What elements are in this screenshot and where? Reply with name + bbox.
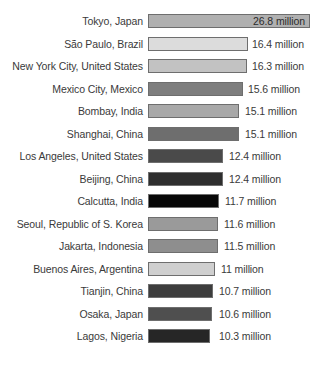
bar [148,82,243,96]
chart-row: Tokyo, Japan26.8 million [0,13,316,29]
category-label: Tianjin, China [0,283,143,299]
value-label: 15.1 million [245,126,297,142]
chart-row: Seoul, Republic of S. Korea11.6 million [0,216,316,232]
bar [148,307,212,321]
bar [148,262,215,276]
bar [148,172,223,186]
value-label: 10.3 million [219,328,271,344]
chart-row: Buenos Aires, Argentina11 million [0,261,316,277]
bar [148,329,210,343]
bar [148,104,239,118]
bar [148,149,223,163]
value-label: 10.6 million [219,306,271,322]
chart-row: Bombay, India15.1 million [0,103,316,119]
category-label: Bombay, India [0,103,143,119]
chart-row: Tianjin, China10.7 million [0,283,316,299]
category-label: Jakarta, Indonesia [0,238,143,254]
category-label: Buenos Aires, Argentina [0,261,143,277]
category-label: Calcutta, India [0,193,143,209]
category-label: Shanghai, China [0,126,143,142]
category-label: Seoul, Republic of S. Korea [0,216,143,232]
category-label: São Paulo, Brazil [0,36,143,52]
chart-row: Beijing, China12.4 million [0,171,316,187]
value-label: 11 million [221,261,264,277]
chart-row: Lagos, Nigeria10.3 million [0,328,316,344]
bar [148,217,218,231]
category-label: New York City, United States [0,58,143,74]
bar [148,284,213,298]
bar [148,239,218,253]
value-label: 12.4 million [229,148,281,164]
chart-row: Los Angeles, United States12.4 million [0,148,316,164]
category-label: Beijing, China [0,171,143,187]
chart-row: New York City, United States16.3 million [0,58,316,74]
chart-row: São Paulo, Brazil16.4 million [0,36,316,52]
value-label: 11.6 million [224,216,275,232]
value-label: 11.5 million [224,238,275,254]
chart-row: Shanghai, China15.1 million [0,126,316,142]
bar [148,59,247,73]
value-label: 12.4 million [229,171,281,187]
chart-row: Calcutta, India11.7 million [0,193,316,209]
value-label: 10.7 million [219,283,271,299]
category-label: Lagos, Nigeria [0,328,143,344]
value-label: 11.7 million [225,193,276,209]
value-label: 16.3 million [252,58,304,74]
bar [148,127,239,141]
category-label: Mexico City, Mexico [0,81,143,97]
value-label: 26.8 million [246,13,305,29]
chart-row: Osaka, Japan10.6 million [0,306,316,322]
population-bar-chart: Tokyo, Japan26.8 millionSão Paulo, Brazi… [0,0,316,372]
bar [148,37,248,51]
value-label: 16.4 million [252,36,304,52]
category-label: Los Angeles, United States [0,148,143,164]
category-label: Tokyo, Japan [0,13,143,29]
category-label: Osaka, Japan [0,306,143,322]
value-label: 15.1 million [245,103,297,119]
bar [148,194,219,208]
chart-row: Jakarta, Indonesia11.5 million [0,238,316,254]
chart-row: Mexico City, Mexico15.6 million [0,81,316,97]
value-label: 15.6 million [248,81,300,97]
